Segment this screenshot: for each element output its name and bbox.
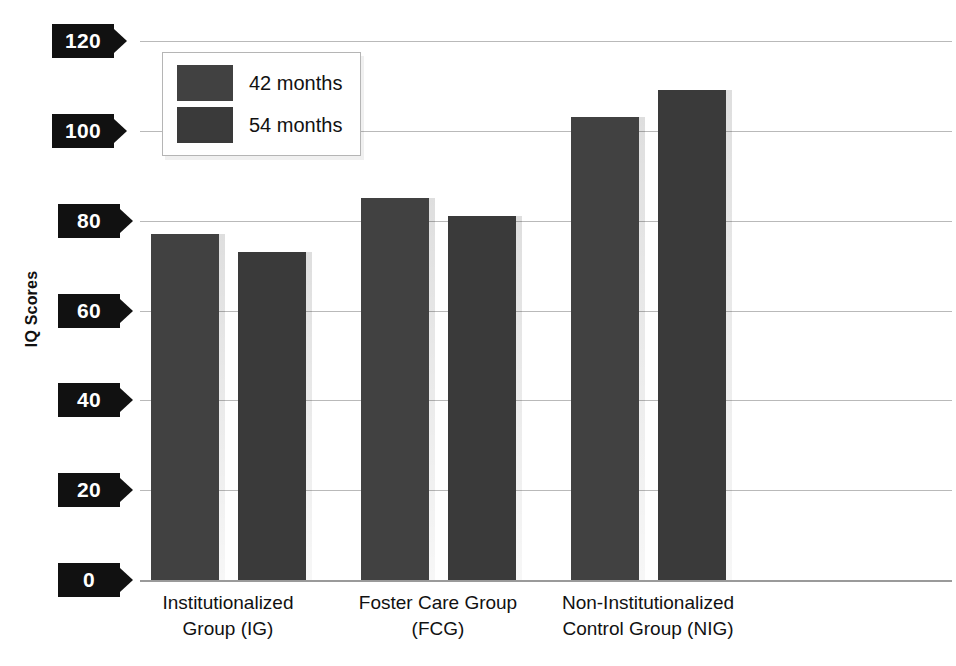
x-axis-category-labels: InstitutionalizedGroup (IG)Foster Care G… bbox=[140, 590, 952, 660]
x-axis-label: Non-InstitutionalizedControl Group (NIG) bbox=[498, 590, 798, 642]
tick-pointer-icon bbox=[114, 29, 127, 53]
legend-swatch-icon bbox=[177, 107, 233, 143]
bar bbox=[361, 198, 429, 580]
bar bbox=[448, 216, 516, 580]
legend: 42 months 54 months bbox=[162, 52, 361, 156]
y-tick-80: 80 bbox=[58, 204, 133, 238]
legend-item: 54 months bbox=[177, 104, 360, 146]
bar bbox=[658, 90, 726, 580]
legend-swatch-icon bbox=[177, 65, 233, 101]
tick-pointer-icon bbox=[120, 299, 133, 323]
bar bbox=[571, 117, 639, 580]
tick-pointer-icon bbox=[120, 478, 133, 502]
x-axis-label-line: Control Group (NIG) bbox=[498, 616, 798, 642]
tick-pointer-icon bbox=[120, 209, 133, 233]
y-tick-60: 60 bbox=[58, 294, 133, 328]
y-tick-label: 40 bbox=[58, 383, 120, 417]
tick-pointer-icon bbox=[114, 119, 127, 143]
x-axis-label-line: Non-Institutionalized bbox=[498, 590, 798, 616]
bar bbox=[238, 252, 306, 580]
bar-chart: IQ Scores 020406080100120 Institutionali… bbox=[0, 0, 956, 666]
y-tick-120: 120 bbox=[52, 24, 127, 58]
chart-title-cropped bbox=[0, 0, 956, 8]
tick-pointer-icon bbox=[120, 568, 133, 592]
legend-label: 54 months bbox=[249, 114, 342, 137]
y-tick-20: 20 bbox=[58, 473, 133, 507]
y-tick-label: 80 bbox=[58, 204, 120, 238]
y-tick-label: 60 bbox=[58, 294, 120, 328]
y-tick-100: 100 bbox=[52, 114, 127, 148]
y-tick-label: 120 bbox=[52, 24, 114, 58]
y-tick-label: 20 bbox=[58, 473, 120, 507]
gridline bbox=[140, 580, 952, 582]
y-tick-40: 40 bbox=[58, 383, 133, 417]
tick-pointer-icon bbox=[120, 388, 133, 412]
bar bbox=[151, 234, 219, 580]
y-tick-label: 100 bbox=[52, 114, 114, 148]
legend-label: 42 months bbox=[249, 72, 342, 95]
legend-item: 42 months bbox=[177, 62, 360, 104]
y-axis-title: IQ Scores bbox=[23, 249, 41, 369]
